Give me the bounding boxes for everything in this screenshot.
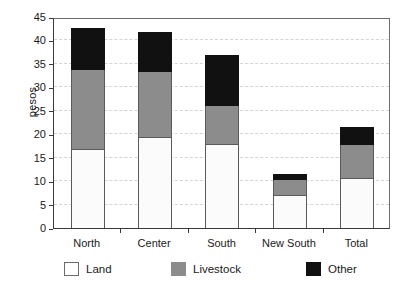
legend-item-other[interactable]: Other xyxy=(306,262,357,276)
bar-segment-livestock[interactable] xyxy=(71,70,105,150)
bar-segment-other[interactable] xyxy=(273,174,307,180)
y-tick-label: 10 xyxy=(34,175,46,188)
x-axis-label-new-south: New South xyxy=(262,237,316,249)
legend-swatch-other xyxy=(306,262,321,276)
plot-area xyxy=(53,18,390,229)
bar-segment-livestock[interactable] xyxy=(138,72,172,137)
legend-swatch-livestock xyxy=(171,262,186,276)
bar-group-south[interactable] xyxy=(189,19,256,228)
legend-item-livestock[interactable]: Livestock xyxy=(171,262,241,276)
legend-label-land: Land xyxy=(86,262,112,276)
legend-swatch-land xyxy=(64,262,79,276)
x-tick-mark xyxy=(188,229,189,233)
y-tick-label: 40 xyxy=(34,34,46,47)
x-axis-ticks-and-labels: NorthCenterSouthNew SouthTotal xyxy=(53,229,390,259)
bar-segment-land[interactable] xyxy=(205,144,239,228)
bar-segment-land[interactable] xyxy=(273,195,307,228)
bar-segment-other[interactable] xyxy=(340,127,374,144)
bar-segment-livestock[interactable] xyxy=(205,106,239,144)
x-tick-mark xyxy=(120,229,121,233)
bar-group-north[interactable] xyxy=(54,19,121,228)
bar-segment-other[interactable] xyxy=(138,32,172,72)
bar-segment-other[interactable] xyxy=(71,28,105,70)
bar-segment-other[interactable] xyxy=(205,55,239,107)
bar-group-new-south[interactable] xyxy=(256,19,323,228)
bar-series-container xyxy=(54,19,389,228)
bar-group-total[interactable] xyxy=(324,19,391,228)
bar-segment-land[interactable] xyxy=(138,137,172,228)
y-tick-label: 45 xyxy=(34,11,46,24)
x-tick-mark xyxy=(323,229,324,233)
y-tick-label: 25 xyxy=(34,105,46,118)
legend-item-land[interactable]: Land xyxy=(64,262,112,276)
y-tick-label: 35 xyxy=(34,58,46,71)
stacked-bar-chart-figure: pesos 051015202530354045 NorthCenterSout… xyxy=(0,0,400,291)
x-tick-mark xyxy=(255,229,256,233)
bar-segment-livestock[interactable] xyxy=(340,145,374,178)
x-axis-label-total: Total xyxy=(345,237,368,249)
bar-group-center[interactable] xyxy=(121,19,188,228)
chart-legend: LandLivestockOther xyxy=(53,262,390,284)
y-tick-label: 30 xyxy=(34,81,46,94)
bar-segment-land[interactable] xyxy=(71,149,105,228)
bar-segment-livestock[interactable] xyxy=(273,180,307,195)
y-axis-ticks: 051015202530354045 xyxy=(0,18,53,229)
x-axis-label-south: South xyxy=(207,237,236,249)
legend-label-livestock: Livestock xyxy=(193,262,241,276)
legend-label-other: Other xyxy=(328,262,357,276)
y-tick-label: 0 xyxy=(40,222,46,235)
x-axis-label-north: North xyxy=(73,237,100,249)
y-tick-label: 15 xyxy=(34,152,46,165)
y-tick-label: 20 xyxy=(34,128,46,141)
bar-segment-land[interactable] xyxy=(340,178,374,228)
y-tick-label: 5 xyxy=(40,199,46,212)
x-axis-label-center: Center xyxy=(138,237,171,249)
